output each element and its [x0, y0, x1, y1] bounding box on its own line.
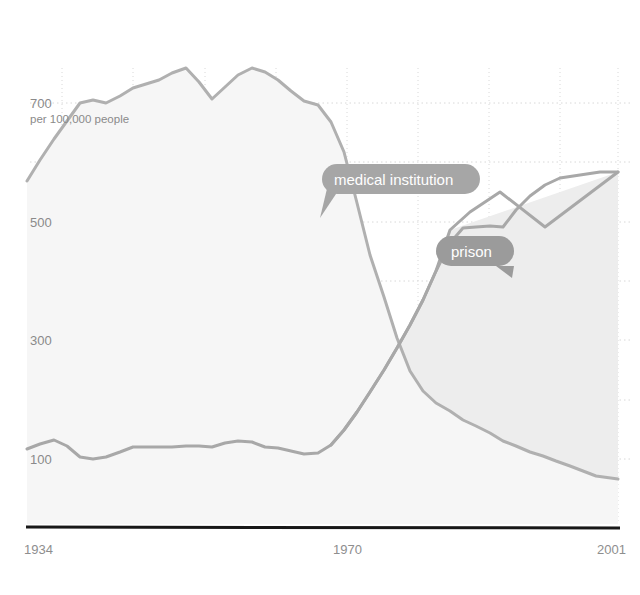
x-tick-1970: 1970 — [333, 542, 362, 557]
x-axis-line — [26, 527, 620, 528]
y-tick-500: 500 — [30, 215, 52, 230]
line-area-chart: 700 500 300 100 per 100,000 people 1934 … — [0, 0, 640, 595]
x-tick-1934: 1934 — [24, 542, 53, 557]
chart-container: 700 500 300 100 per 100,000 people 1934 … — [0, 0, 640, 595]
y-tick-700: 700 — [30, 96, 52, 111]
y-axis-unit-label: per 100,000 people — [30, 113, 129, 125]
callout-medical-label: medical institution — [334, 171, 453, 188]
y-tick-100: 100 — [30, 452, 52, 467]
y-tick-300: 300 — [30, 333, 52, 348]
x-tick-2001: 2001 — [597, 542, 626, 557]
callout-prison-label: prison — [451, 243, 492, 260]
